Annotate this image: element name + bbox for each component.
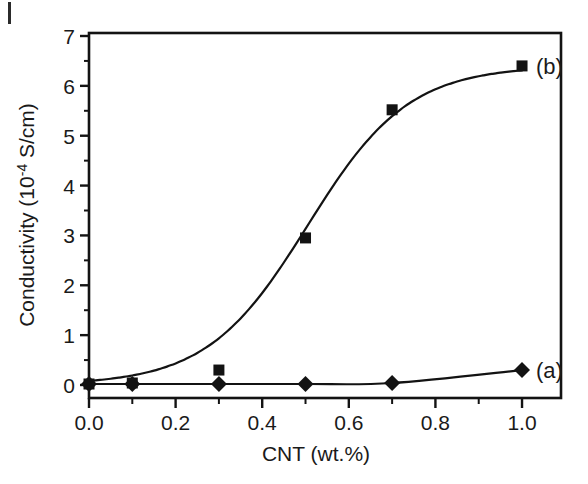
x-axis-title: CNT (wt.%) [262, 442, 370, 465]
plot-frame [89, 33, 561, 398]
conductivity-chart: 01234567 0.00.20.40.60.81.0 (a)(b) Condu… [0, 0, 588, 484]
data-point-marker [300, 232, 311, 243]
x-tick-label-0.6: 0.6 [334, 411, 363, 434]
x-tick-label-0.4: 0.4 [248, 411, 278, 434]
data-point-marker [213, 365, 224, 376]
x-tick-label-0.8: 0.8 [421, 411, 450, 434]
x-axis-tick-labels: 0.00.20.40.60.81.0 [74, 411, 536, 434]
data-point-marker [84, 379, 95, 390]
data-point-marker [298, 376, 314, 392]
series-label-a: (a) [536, 358, 563, 383]
y-tick-label-6: 6 [63, 75, 75, 98]
y-tick-label-2: 2 [63, 274, 75, 297]
series-b [84, 60, 528, 389]
data-point-marker [387, 104, 398, 115]
data-point-marker [514, 362, 530, 378]
x-tick-label-0.0: 0.0 [74, 411, 103, 434]
y-tick-label-1: 1 [63, 324, 75, 347]
series-annotation-layer: (a)(b) [536, 54, 563, 383]
data-point-marker [384, 375, 400, 391]
curve-b [89, 70, 522, 381]
series-a [81, 362, 530, 392]
data-point-marker [517, 60, 528, 71]
figure-container: 01234567 0.00.20.40.60.81.0 (a)(b) Condu… [0, 0, 588, 484]
y-tick-label-0: 0 [63, 374, 75, 397]
x-tick-label-0.2: 0.2 [161, 411, 190, 434]
y-tick-label-5: 5 [63, 125, 75, 148]
y-tick-label-3: 3 [63, 224, 75, 247]
data-point-marker [211, 376, 227, 392]
data-series-layer [81, 60, 530, 392]
y-tick-label-4: 4 [63, 175, 75, 198]
data-point-marker [127, 378, 138, 389]
y-axis-title: Conductivity (10-4 S/cm) [14, 103, 38, 327]
y-tick-label-7: 7 [63, 25, 75, 48]
series-label-b: (b) [536, 54, 563, 79]
x-tick-label-1.0: 1.0 [507, 411, 536, 434]
y-axis-tick-labels: 01234567 [63, 25, 75, 397]
